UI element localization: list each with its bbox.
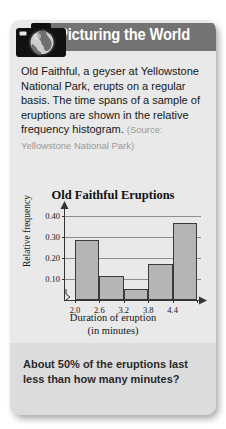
histogram-bar: [173, 223, 197, 300]
y-tick-label: 0.20: [34, 253, 60, 263]
x-tick-mark: [148, 300, 149, 303]
x-tick-mark: [197, 300, 198, 303]
question-text: About 50% of the eruptions last less tha…: [23, 357, 203, 386]
chart-title: Old Faithful Eruptions: [10, 188, 216, 203]
x-axis-label: Duration of eruption (in minutes): [10, 312, 216, 337]
histogram-bar: [75, 240, 99, 300]
gridline: [65, 216, 201, 217]
question-panel: About 50% of the eruptions last less tha…: [10, 343, 216, 415]
x-axis-arrow: [199, 296, 207, 305]
x-tick-mark: [99, 300, 100, 303]
histogram-bar: [124, 289, 148, 301]
x-tick-mark: [173, 300, 174, 303]
plot-area: Relative frequency 0.100.200.300.40 2.02…: [10, 204, 216, 304]
x-axis-line: [64, 300, 201, 301]
y-tick-label: 0.30: [34, 232, 60, 242]
y-axis-line: [64, 206, 65, 300]
y-tick-label: 0.10: [34, 274, 60, 284]
histogram-bar: [99, 276, 123, 300]
card-paragraph: Old Faithful, a geyser at Yellowstone Na…: [21, 64, 209, 154]
card-header: Picturing the World: [10, 20, 216, 58]
histogram-bar: [148, 264, 172, 300]
y-tick-label: 0.40: [34, 211, 60, 221]
axis-break-icon: [65, 289, 75, 301]
x-tick-mark: [124, 300, 125, 303]
paragraph-text: Old Faithful, a geyser at Yellowstone Na…: [21, 65, 200, 135]
banner-title: Picturing the World: [58, 25, 202, 45]
histogram-figure: Old Faithful Eruptions Relative frequenc…: [10, 188, 216, 340]
x-axis-label-main: Duration of eruption: [10, 312, 216, 325]
camera-globe-icon: [13, 20, 71, 58]
y-axis-label: Relative frequency: [22, 192, 32, 270]
x-tick-mark: [75, 300, 76, 303]
x-axis-label-units: (in minutes): [10, 325, 216, 338]
picturing-the-world-card: Picturing the World Old Faithful, a geys…: [10, 20, 216, 415]
y-axis-arrow: [60, 201, 69, 209]
